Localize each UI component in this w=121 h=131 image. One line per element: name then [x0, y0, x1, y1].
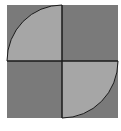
quarter-circle-diagram: [0, 0, 121, 131]
